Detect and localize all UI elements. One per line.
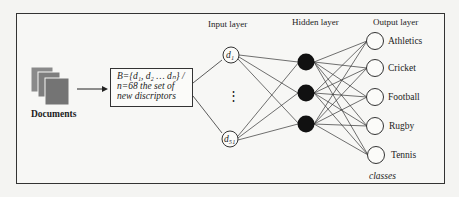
svg-text:d₁: d₁	[226, 50, 234, 60]
hidden-node-1	[298, 54, 315, 71]
documents-label: Documents	[31, 109, 77, 119]
input-node-d1: d₁	[223, 47, 239, 63]
output-layer-title: Output layer	[373, 17, 418, 27]
hidden-layer-title: Hidden layer	[292, 17, 339, 27]
descriptor-line-3: new discriptors	[117, 91, 176, 101]
input-layer-title: Input layer	[208, 19, 247, 29]
svg-text:Cricket: Cricket	[388, 63, 416, 73]
svg-text:Football: Football	[388, 92, 420, 102]
svg-text:Tennis: Tennis	[391, 150, 416, 160]
svg-text:d₅₁: d₅₁	[224, 134, 235, 144]
input-node-d51: d₅₁	[222, 131, 238, 147]
svg-text:Athletics: Athletics	[388, 36, 423, 46]
hidden-node-2	[298, 85, 315, 102]
svg-text:Rugby: Rugby	[389, 121, 415, 131]
input-ellipsis: ⋮	[227, 88, 240, 103]
classes-label: classes	[369, 171, 396, 181]
neural-network-diagram: Documents B={d₁, d₂ … dₙ} / n=68 the set…	[0, 0, 459, 197]
descriptor-line-2: n=68 the set of	[117, 81, 176, 91]
hidden-node-3	[298, 116, 315, 133]
descriptor-line-1: B={d₁, d₂ … dₙ} /	[117, 71, 186, 81]
